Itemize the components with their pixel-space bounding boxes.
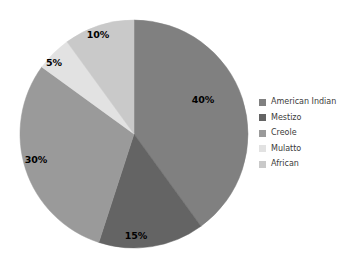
- legend-item-label: American Indian: [271, 97, 336, 107]
- pie-chart: 40%15%30%5%10% American IndianMestizoCre…: [0, 0, 344, 256]
- legend-item-label: Creole: [271, 128, 297, 138]
- legend-swatch-icon: [259, 99, 266, 106]
- legend-swatch-icon: [259, 161, 266, 168]
- legend-item-label: Mulatto: [271, 144, 301, 154]
- pie-svg: 40%15%30%5%10%: [0, 0, 262, 256]
- pie-slice-value-label: 30%: [25, 154, 48, 165]
- pie-slice-value-label: 40%: [192, 94, 215, 105]
- legend-item[interactable]: Creole: [259, 126, 344, 140]
- pie-slice-value-label: 5%: [46, 57, 63, 68]
- legend-swatch-icon: [259, 130, 266, 137]
- legend-swatch-icon: [259, 114, 266, 121]
- legend-item[interactable]: African: [259, 157, 344, 171]
- legend-item[interactable]: American Indian: [259, 95, 344, 109]
- legend-item[interactable]: Mulatto: [259, 142, 344, 156]
- legend-item-label: Mestizo: [271, 113, 301, 123]
- legend: American IndianMestizoCreoleMulattoAfric…: [259, 95, 344, 173]
- pie-slice-group: [20, 20, 248, 248]
- legend-item[interactable]: Mestizo: [259, 111, 344, 125]
- pie-slice-value-label: 15%: [125, 230, 148, 241]
- pie-plot-area: 40%15%30%5%10%: [0, 0, 262, 256]
- legend-swatch-icon: [259, 145, 266, 152]
- pie-slice-value-label: 10%: [87, 29, 110, 40]
- legend-item-label: African: [271, 159, 299, 169]
